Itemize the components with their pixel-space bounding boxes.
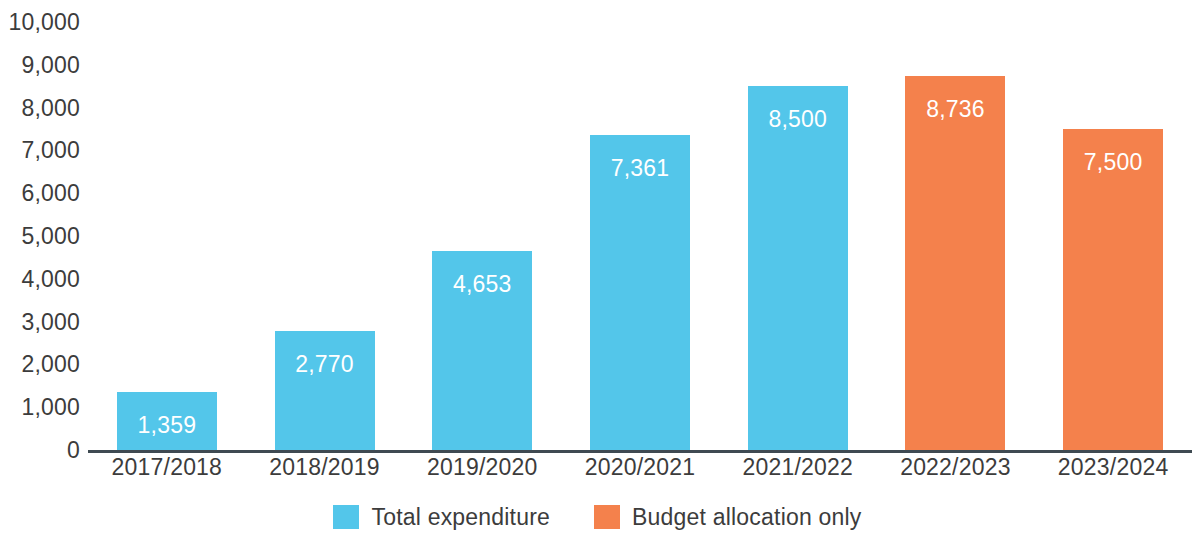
bar-2021-2022: 8,500 bbox=[748, 86, 848, 450]
y-axis-tick-label: 2,000 bbox=[0, 353, 80, 376]
y-axis-tick-label: 5,000 bbox=[0, 225, 80, 248]
legend-label: Budget allocation only bbox=[632, 506, 861, 529]
legend-swatch-orange-icon bbox=[594, 505, 620, 529]
legend-swatch-blue-icon bbox=[333, 505, 359, 529]
y-axis-tick-label: 1,000 bbox=[0, 396, 80, 419]
x-axis-line bbox=[88, 450, 1192, 453]
y-axis-tick-label: 4,000 bbox=[0, 267, 80, 290]
bar-value-label: 4,653 bbox=[432, 273, 532, 296]
y-axis-tick-label: 3,000 bbox=[0, 310, 80, 333]
bar-value-label: 8,500 bbox=[748, 108, 848, 131]
y-axis: 10,0009,0008,0007,0006,0005,0004,0003,00… bbox=[0, 0, 80, 470]
bar-2019-2020: 4,653 bbox=[432, 251, 532, 450]
bar-2018-2019: 2,770 bbox=[275, 331, 375, 450]
x-axis-tick-label: 2020/2021 bbox=[561, 455, 719, 480]
y-axis-tick-label: 6,000 bbox=[0, 182, 80, 205]
bar-value-label: 2,770 bbox=[275, 353, 375, 376]
bar-2022-2023: 8,736 bbox=[905, 76, 1005, 450]
bar-value-label: 7,361 bbox=[590, 157, 690, 180]
legend-label: Total expenditure bbox=[371, 506, 550, 529]
y-axis-tick-label: 10,000 bbox=[0, 11, 80, 34]
bar-value-label: 8,736 bbox=[905, 98, 1005, 121]
bar-2020-2021: 7,361 bbox=[590, 135, 690, 450]
y-axis-tick-label: 0 bbox=[0, 439, 80, 462]
x-axis: 2017/20182018/20192019/20202020/20212021… bbox=[88, 455, 1192, 485]
bar-2017-2018: 1,359 bbox=[117, 392, 217, 450]
bar-chart: 10,0009,0008,0007,0006,0005,0004,0003,00… bbox=[0, 0, 1195, 537]
y-axis-tick-label: 7,000 bbox=[0, 139, 80, 162]
bar-2023-2024: 7,500 bbox=[1063, 129, 1163, 450]
x-axis-tick-label: 2017/2018 bbox=[88, 455, 246, 480]
x-axis-tick-label: 2022/2023 bbox=[877, 455, 1035, 480]
plot-area: 1,3592,7704,6537,3618,5008,7367,500 bbox=[88, 22, 1192, 450]
x-axis-tick-label: 2019/2020 bbox=[403, 455, 561, 480]
legend-item: Total expenditure bbox=[333, 505, 550, 529]
x-axis-tick-label: 2023/2024 bbox=[1034, 455, 1192, 480]
bar-value-label: 1,359 bbox=[117, 414, 217, 437]
legend-item: Budget allocation only bbox=[594, 505, 861, 529]
x-axis-tick-label: 2021/2022 bbox=[719, 455, 877, 480]
y-axis-tick-label: 9,000 bbox=[0, 53, 80, 76]
bar-value-label: 7,500 bbox=[1063, 151, 1163, 174]
chart-legend: Total expenditureBudget allocation only bbox=[0, 505, 1195, 529]
y-axis-tick-label: 8,000 bbox=[0, 96, 80, 119]
x-axis-tick-label: 2018/2019 bbox=[246, 455, 404, 480]
